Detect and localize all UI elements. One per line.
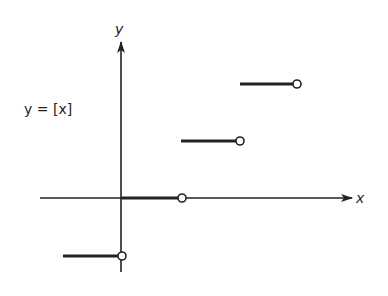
y-axis-label: y: [114, 21, 124, 37]
segment-y-2: [240, 80, 301, 88]
open-endpoint: [178, 194, 186, 202]
segment-y-neg1: [63, 252, 126, 260]
segment-y-0: [121, 194, 186, 202]
x-axis-label: x: [355, 190, 365, 206]
segment-y-1: [181, 137, 244, 145]
open-endpoint: [236, 137, 244, 145]
equation-label: y = [x]: [24, 101, 72, 117]
step-function-diagram: y x y = [x]: [0, 0, 388, 296]
open-endpoint: [118, 252, 126, 260]
open-endpoint: [293, 80, 301, 88]
